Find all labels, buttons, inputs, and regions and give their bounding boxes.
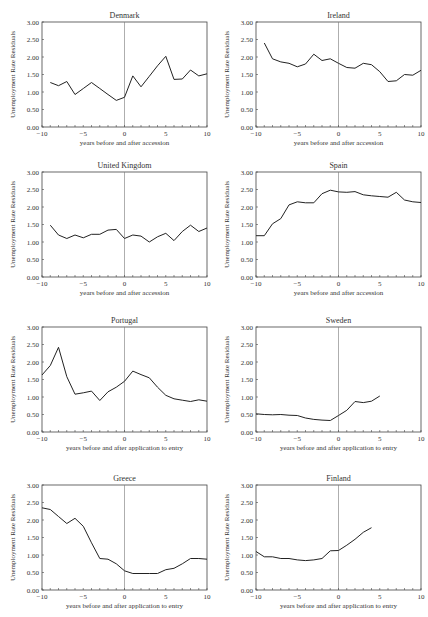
y-tick-label: 1.00 <box>27 394 40 402</box>
x-tick-label: 0 <box>337 130 341 138</box>
x-tick-label: −5 <box>294 593 302 601</box>
y-tick-label: 2.50 <box>27 341 40 349</box>
y-tick-label: 2.50 <box>241 36 254 44</box>
x-tick-label: 10 <box>418 435 426 443</box>
data-series-line <box>256 396 380 421</box>
x-tick-label: −10 <box>37 280 48 288</box>
y-tick-label: 3.00 <box>27 482 40 490</box>
y-tick-label: 1.50 <box>27 71 40 79</box>
x-tick-label: 5 <box>378 130 382 138</box>
x-axis-label: years before and after application to en… <box>280 602 398 610</box>
y-tick-label: 0.50 <box>241 256 254 264</box>
x-tick-label: −10 <box>37 130 48 138</box>
x-axis-label: years before and after accession <box>294 289 384 297</box>
y-tick-label: 1.50 <box>27 534 40 542</box>
chart-panel-ireland: Ireland0.000.501.001.502.002.503.00−10−5… <box>214 0 428 150</box>
y-tick-label: 0.50 <box>241 411 254 419</box>
y-tick-label: 2.50 <box>27 186 40 194</box>
y-tick-label: 0.50 <box>27 411 40 419</box>
chart-title: Finland <box>326 474 350 483</box>
y-tick-label: 2.50 <box>27 499 40 507</box>
y-tick-label: 0.50 <box>241 569 254 577</box>
x-tick-label: 10 <box>418 130 426 138</box>
x-tick-label: 0 <box>337 593 341 601</box>
chart-panel-finland: Finland0.000.501.001.502.002.503.00−10−5… <box>214 463 428 613</box>
x-tick-label: 0 <box>337 435 341 443</box>
y-tick-label: 2.00 <box>241 54 254 62</box>
y-axis-label: Unemployment Rate Residuals <box>223 181 231 268</box>
x-tick-label: −10 <box>251 280 262 288</box>
x-tick-label: 5 <box>378 280 382 288</box>
chart-title: United Kingdom <box>98 161 153 170</box>
y-tick-label: 3.00 <box>27 19 40 27</box>
chart-panel-denmark: Denmark0.000.501.001.502.002.503.00−10−5… <box>0 0 214 150</box>
y-tick-label: 0.50 <box>27 256 40 264</box>
y-tick-label: 2.50 <box>27 36 40 44</box>
chart-panel-sweden: Sweden0.000.501.001.502.002.503.00−10−50… <box>214 305 428 455</box>
x-tick-label: 10 <box>418 593 426 601</box>
x-axis-label: years before and after accession <box>80 139 170 147</box>
x-tick-label: −10 <box>251 435 262 443</box>
x-tick-label: −10 <box>37 435 48 443</box>
y-tick-label: 1.50 <box>27 376 40 384</box>
y-tick-label: 0.50 <box>241 106 254 114</box>
x-tick-label: 5 <box>164 280 168 288</box>
x-axis-label: years before and after application to en… <box>280 444 398 452</box>
x-axis-label: years before and after application to en… <box>66 602 184 610</box>
x-tick-label: 5 <box>164 130 168 138</box>
x-tick-label: −5 <box>294 435 302 443</box>
y-tick-label: 1.00 <box>241 394 254 402</box>
data-series-line <box>50 56 207 100</box>
y-tick-label: 2.50 <box>241 499 254 507</box>
data-series-line <box>264 43 421 82</box>
data-series-line <box>50 225 207 242</box>
y-tick-label: 2.50 <box>241 186 254 194</box>
y-tick-label: 1.50 <box>241 221 254 229</box>
chart-title: Greece <box>113 474 136 483</box>
chart-panel-portugal: Portugal0.000.501.001.502.002.503.00−10−… <box>0 305 214 455</box>
y-tick-label: 2.50 <box>241 341 254 349</box>
x-tick-label: −10 <box>251 593 262 601</box>
y-axis-label: Unemployment Rate Residuals <box>9 31 17 118</box>
x-tick-label: −5 <box>80 435 88 443</box>
x-tick-label: 10 <box>204 130 212 138</box>
x-tick-label: 10 <box>204 435 212 443</box>
y-axis-label: Unemployment Rate Residuals <box>223 336 231 423</box>
x-tick-label: −5 <box>294 280 302 288</box>
y-tick-label: 1.00 <box>241 239 254 247</box>
x-tick-label: 0 <box>123 280 127 288</box>
x-tick-label: −5 <box>80 593 88 601</box>
y-axis-label: Unemployment Rate Residuals <box>9 181 17 268</box>
y-tick-label: 0.50 <box>27 569 40 577</box>
x-axis-label: years before and after application to en… <box>66 444 184 452</box>
y-tick-label: 1.50 <box>241 71 254 79</box>
x-tick-label: −10 <box>37 593 48 601</box>
x-tick-label: 10 <box>204 280 212 288</box>
data-series-line <box>256 528 372 561</box>
y-tick-label: 1.00 <box>27 552 40 560</box>
y-tick-label: 1.00 <box>27 89 40 97</box>
x-tick-label: 5 <box>164 435 168 443</box>
x-tick-label: 0 <box>337 280 341 288</box>
chart-title: Ireland <box>327 11 350 20</box>
y-tick-label: 1.50 <box>241 534 254 542</box>
chart-title: Sweden <box>326 316 351 325</box>
x-tick-label: −5 <box>80 280 88 288</box>
y-axis-label: Unemployment Rate Residuals <box>9 336 17 423</box>
y-tick-label: 3.00 <box>241 324 254 332</box>
chart-title: Spain <box>329 161 347 170</box>
x-tick-label: 0 <box>123 130 127 138</box>
y-tick-label: 2.00 <box>241 359 254 367</box>
y-tick-label: 3.00 <box>241 169 254 177</box>
y-tick-label: 3.00 <box>27 324 40 332</box>
y-axis-label: Unemployment Rate Residuals <box>9 494 17 581</box>
y-axis-label: Unemployment Rate Residuals <box>223 31 231 118</box>
y-tick-label: 2.00 <box>27 54 40 62</box>
y-tick-label: 1.00 <box>241 552 254 560</box>
x-tick-label: 0 <box>123 435 127 443</box>
y-tick-label: 2.00 <box>241 204 254 212</box>
x-tick-label: −5 <box>294 130 302 138</box>
y-tick-label: 2.00 <box>27 204 40 212</box>
chart-title: Portugal <box>111 316 139 325</box>
x-tick-label: 10 <box>204 593 212 601</box>
